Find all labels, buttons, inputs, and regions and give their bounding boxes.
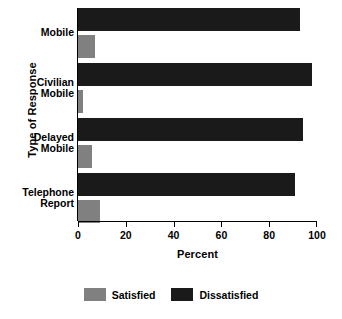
x-axis-tick-labels: 020406080100	[78, 229, 317, 243]
bar-dissatisfied	[78, 173, 295, 196]
x-axis-tick	[126, 221, 127, 227]
legend-item: Satisfied	[84, 288, 156, 301]
x-axis-tick-label: 100	[297, 229, 337, 241]
y-axis-category-label-line: Report	[8, 198, 74, 210]
legend-item: Dissatisfied	[171, 288, 258, 301]
plot-area	[78, 8, 317, 220]
y-axis-category-label-line: Mobile	[8, 88, 74, 100]
legend-label: Dissatisfied	[199, 289, 258, 301]
x-axis-tick	[78, 221, 79, 227]
y-axis-category-label: DelayedMobile	[8, 132, 74, 155]
x-axis-tick	[221, 221, 222, 227]
y-axis-category-label-line: Mobile	[8, 143, 74, 155]
bar-satisfied	[78, 35, 95, 58]
y-axis-category-label: Mobile	[8, 27, 74, 39]
legend-swatch-satisfied	[84, 288, 106, 301]
y-axis-category-labels: MobileCivilianMobileDelayedMobileTelepho…	[8, 8, 74, 220]
x-axis-tick-label: 40	[154, 229, 194, 241]
bar-satisfied	[78, 145, 92, 168]
chart-legend: SatisfiedDissatisfied	[0, 288, 342, 301]
y-axis-category-label-line: Mobile	[8, 27, 74, 39]
x-axis-tick	[269, 221, 270, 227]
x-axis-title: Percent	[78, 248, 317, 260]
bar-satisfied	[78, 90, 83, 113]
bar-satisfied	[78, 200, 100, 223]
legend-swatch-dissatisfied	[171, 288, 193, 301]
bar-dissatisfied	[78, 8, 300, 31]
y-axis-category-label: CivilianMobile	[8, 77, 74, 100]
x-axis-tick	[174, 221, 175, 227]
bar-dissatisfied	[78, 118, 303, 141]
x-axis-ticks	[78, 221, 317, 227]
bar-chart: Type of Response MobileCivilianMobileDel…	[0, 0, 342, 319]
x-axis-tick	[316, 221, 317, 227]
x-axis-tick-label: 80	[249, 229, 289, 241]
y-axis-category-label: TelephoneReport	[8, 187, 74, 210]
x-axis-tick-label: 60	[201, 229, 241, 241]
legend-label: Satisfied	[112, 289, 156, 301]
bar-dissatisfied	[78, 63, 312, 86]
x-axis-tick-label: 0	[58, 229, 98, 241]
x-axis-tick-label: 20	[106, 229, 146, 241]
